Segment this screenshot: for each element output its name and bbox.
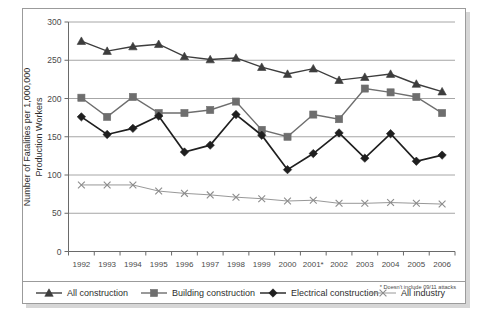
legend-item-building-construction[interactable]: Building construction [141,288,255,298]
y-tick-label: 200 [47,94,61,104]
triangle-marker [309,64,317,72]
series-all-industry [78,182,446,208]
x-tick-label: 2001* [303,260,324,269]
diamond-marker [438,151,446,159]
y-tick-label: 100 [47,170,61,180]
x-tick-label: 2003 [356,260,374,269]
square-marker [439,109,446,116]
square-marker [104,113,111,120]
y-tick-label: 150 [47,132,61,142]
series-electrical-construction [77,110,446,173]
legend-item-electrical-construction[interactable]: Electrical construction [260,288,379,298]
y-tick-label: 0 [57,247,62,257]
x-tick-label: 1993 [98,260,116,269]
x-tick-label: 2006 [433,260,451,269]
diamond-marker [269,289,277,297]
square-marker [207,106,214,113]
legend-label: Electrical construction [291,288,379,298]
series-line [81,115,442,170]
y-tick-label: 300 [47,17,61,27]
legend-label: Building construction [172,288,255,298]
y-axis-title-line2: Production Workers [34,97,44,176]
x-tick-label: 2004 [382,260,400,269]
x-tick-label: 1994 [124,260,142,269]
footnote-text: * Doesn't include 09/11 attacks [380,284,456,290]
legend-item-all-construction[interactable]: All construction [36,288,128,298]
y-axis-title-line1: Number of Fatalities per 1,000,000 [22,68,32,207]
series-all-construction [77,37,446,95]
square-marker [284,133,291,140]
square-marker [129,93,136,100]
x-tick-label: 1995 [150,260,168,269]
chart-figure: 050100150200250300 199219931994199519961… [0,0,477,321]
triangle-marker [180,52,188,60]
x-tick-label: 2005 [407,260,425,269]
x-tick-label: 2002 [330,260,348,269]
square-marker [232,98,239,105]
fatalities-line-chart: 050100150200250300 199219931994199519961… [0,0,477,321]
x-tick-group: 1992199319941995199619971998199920002001… [69,252,456,269]
y-tick-group: 050100150200250300 [47,17,68,257]
x-tick-label: 1992 [72,260,90,269]
y-tick-label: 250 [47,55,61,65]
square-marker [181,109,188,116]
triangle-marker [77,37,85,45]
triangle-marker [386,70,394,78]
series-group [77,37,446,208]
x-tick-label: 2000 [279,260,297,269]
square-marker [387,89,394,96]
square-marker [335,116,342,123]
x-tick-label: 1997 [201,260,219,269]
square-marker [78,94,85,101]
x-tick-label: 1999 [253,260,271,269]
x-tick-label: 1996 [176,260,194,269]
y-tick-label: 50 [52,208,62,218]
square-marker [413,93,420,100]
square-marker [361,85,368,92]
y-axis-title: Number of Fatalities per 1,000,000 Produ… [22,68,44,207]
diamond-marker [129,124,137,132]
x-tick-label: 1998 [227,260,245,269]
square-marker [150,289,157,296]
square-marker [310,111,317,118]
legend-label: All construction [67,288,128,298]
